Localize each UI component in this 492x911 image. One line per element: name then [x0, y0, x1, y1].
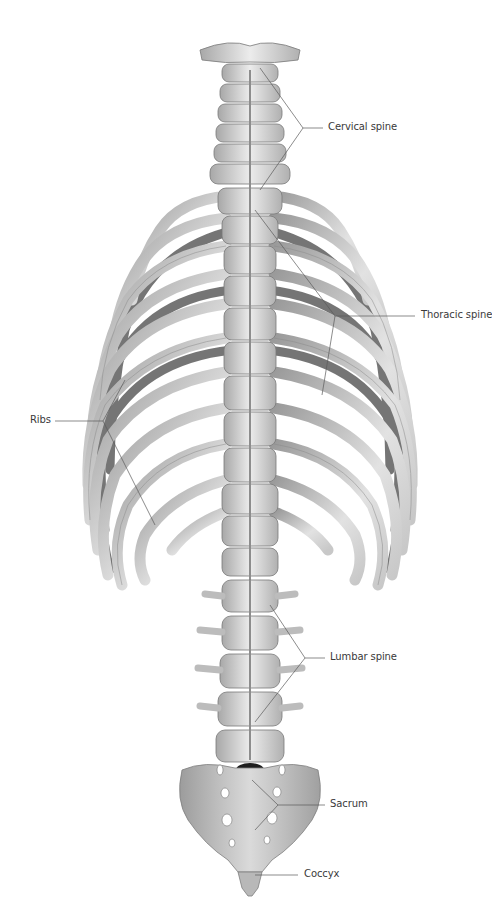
- sacrum-bone: [180, 764, 321, 896]
- label-coccyx: Coccyx: [304, 868, 339, 879]
- label-thoracic-spine: Thoracic spine: [421, 309, 492, 320]
- label-sacrum: Sacrum: [330, 798, 368, 809]
- label-cervical-spine: Cervical spine: [328, 121, 397, 132]
- label-ribs: Ribs: [30, 414, 51, 425]
- label-lumbar-spine: Lumbar spine: [330, 651, 397, 662]
